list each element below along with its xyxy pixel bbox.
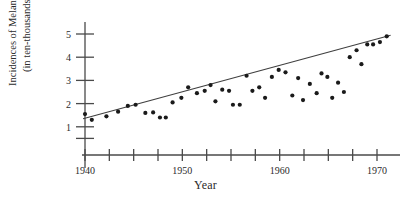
- y-tick-label: 4: [66, 52, 71, 63]
- data-point: [171, 100, 175, 104]
- data-point: [290, 93, 294, 97]
- data-point: [179, 96, 183, 100]
- data-point: [90, 118, 94, 122]
- data-point: [134, 103, 138, 107]
- data-point: [348, 55, 352, 59]
- data-point: [378, 40, 382, 44]
- data-point: [277, 68, 281, 72]
- data-point: [195, 91, 199, 95]
- data-point: [359, 62, 363, 66]
- data-point: [151, 110, 155, 114]
- data-point: [325, 75, 329, 79]
- data-point: [371, 42, 375, 46]
- data-point: [263, 96, 267, 100]
- data-points: [83, 34, 389, 122]
- data-point: [385, 34, 389, 38]
- data-point: [186, 85, 190, 89]
- data-point: [208, 83, 212, 87]
- data-point: [213, 99, 217, 103]
- tick-labels: 194019501960197012345: [66, 29, 387, 176]
- data-point: [250, 89, 254, 93]
- x-tick-label: 1960: [270, 165, 290, 176]
- data-point: [308, 82, 312, 86]
- axes: [76, 22, 400, 168]
- data-point: [116, 110, 120, 114]
- y-tick-label: 3: [66, 75, 71, 86]
- data-point: [296, 76, 300, 80]
- data-point: [231, 103, 235, 107]
- data-point: [319, 71, 323, 75]
- data-point: [270, 75, 274, 79]
- data-point: [203, 89, 207, 93]
- x-tick-label: 1950: [172, 165, 192, 176]
- data-point: [164, 115, 168, 119]
- data-point: [83, 112, 87, 116]
- data-point: [220, 88, 224, 92]
- data-point: [126, 104, 130, 108]
- data-point: [238, 103, 242, 107]
- data-point: [104, 114, 108, 118]
- data-point: [227, 89, 231, 93]
- data-point: [244, 74, 248, 78]
- y-tick-label: 1: [66, 122, 71, 133]
- y-tick-label: 2: [66, 99, 71, 110]
- data-point: [315, 91, 319, 95]
- data-point: [257, 85, 261, 89]
- data-point: [283, 70, 287, 74]
- y-tick-label: 5: [66, 29, 71, 40]
- plot-area: 194019501960197012345: [0, 0, 411, 202]
- data-point: [330, 96, 334, 100]
- data-point: [365, 42, 369, 46]
- data-point: [158, 115, 162, 119]
- data-point: [354, 48, 358, 52]
- x-tick-label: 1970: [367, 165, 387, 176]
- melanoma-scatter-chart: Incidences of Melanoma (in ten-thousands…: [0, 0, 411, 202]
- data-point: [143, 111, 147, 115]
- x-tick-label: 1940: [75, 165, 95, 176]
- data-point: [301, 98, 305, 102]
- data-point: [342, 90, 346, 94]
- data-point: [336, 81, 340, 85]
